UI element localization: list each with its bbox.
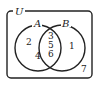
b-only-value: 1: [69, 41, 75, 51]
set-a-label: A: [33, 18, 41, 29]
set-b-label: B: [61, 18, 69, 29]
outside-value: 7: [81, 64, 87, 74]
set-b-circle: [39, 25, 85, 71]
intersection-value: 6: [48, 49, 54, 59]
a-only-value: 2: [26, 37, 32, 47]
universe-label: U: [15, 6, 24, 17]
set-a-circle: [15, 25, 61, 71]
venn-diagram: U A B 2 4 3 5 6 1 7: [0, 0, 98, 93]
a-only-value: 4: [35, 51, 41, 61]
